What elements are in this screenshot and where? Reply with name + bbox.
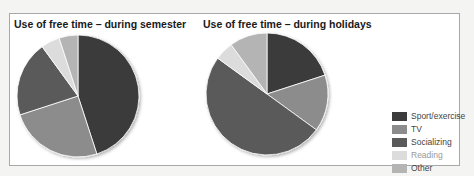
- legend: Sport/exercise TV Socializing Reading Ot…: [392, 110, 465, 175]
- legend-swatch-socializing: [392, 138, 407, 147]
- semester-chart-title: Use of free time – during semester: [14, 18, 186, 30]
- holidays-chart-title: Use of free time – during holidays: [203, 18, 372, 30]
- legend-swatch-reading: [392, 151, 407, 160]
- chart-panel: Use of free time – during semester Use o…: [9, 13, 460, 166]
- legend-swatch-other: [392, 164, 407, 173]
- legend-item-other: Other: [392, 162, 465, 174]
- legend-item-reading: Reading: [392, 149, 465, 161]
- holidays-pie-chart: [205, 32, 329, 156]
- legend-item-tv: TV: [392, 123, 465, 135]
- legend-item-sport: Sport/exercise: [392, 110, 465, 122]
- legend-item-socializing: Socializing: [392, 136, 465, 148]
- legend-swatch-sport: [392, 112, 407, 121]
- semester-pie-chart: [16, 34, 140, 158]
- legend-swatch-tv: [392, 125, 407, 134]
